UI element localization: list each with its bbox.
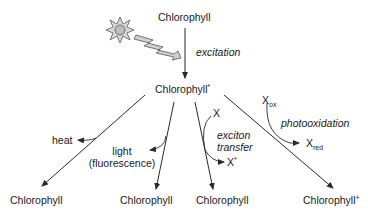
node-chlorophyll-excited: Chlorophyll* [155,84,210,95]
label-x-ox: Xox [262,95,276,106]
label-exciton: exciton [217,130,250,141]
label-transfer: transfer [217,142,253,153]
label-x-star: X* [227,157,237,168]
node-chlorophyll-ground: Chlorophyll [158,12,211,23]
node-label: Chlorophyll [303,194,356,206]
node-label: Chlorophyll [155,83,208,95]
label-photooxidation: photooxidation [281,118,349,129]
label-light: light [92,146,152,157]
label-excitation: excitation [196,47,240,58]
node-chlorophyll-heat-product: Chlorophyll [10,195,63,206]
label-x: X [213,108,220,119]
x-star-base: X [227,156,234,168]
node-chlorophyll-cation: Chlorophyll+ [303,195,360,206]
x-star-superscript: * [234,156,237,163]
x-ox-base: X [262,94,269,106]
diagram-canvas: Chlorophyll excitation Chlorophyll* heat… [0,0,368,213]
excited-superscript: * [208,83,211,90]
x-red-base: X [306,137,313,149]
cation-superscript: + [356,194,360,201]
label-x-red: Xred [306,138,323,149]
x-ox-subscript: ox [269,101,276,108]
node-label: Chlorophyll [158,11,211,23]
lightning-bolt-icon [134,35,181,60]
diagram-arrows [0,0,368,213]
node-chlorophyll-fluorescence-product: Chlorophyll [120,195,173,206]
label-heat: heat [52,135,72,146]
sun-icon [106,17,134,43]
label-fluorescence: (fluorescence) [88,158,156,169]
node-chlorophyll-exciton-product: Chlorophyll [196,195,249,206]
x-red-subscript: red [313,144,323,151]
